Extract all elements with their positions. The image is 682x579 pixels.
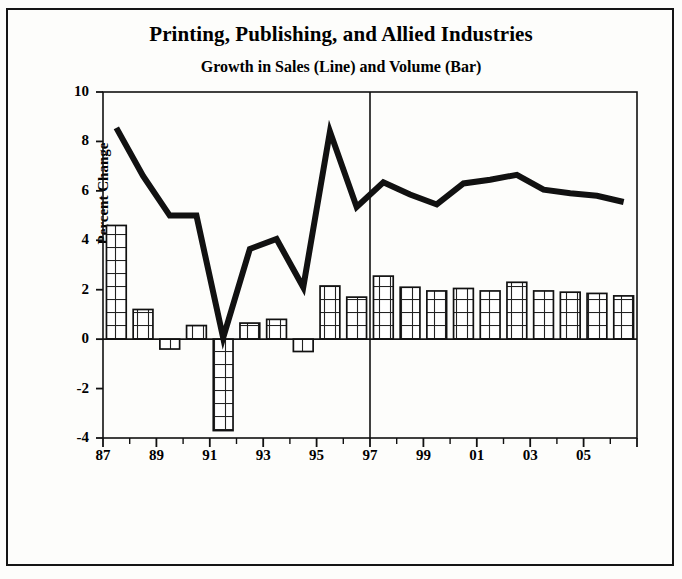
y-tick-label: -4 <box>55 431 89 443</box>
y-tick-label: 2 <box>55 283 89 295</box>
y-tick-label: -2 <box>55 382 89 394</box>
bar <box>187 326 207 340</box>
bar <box>373 276 393 339</box>
bar <box>534 291 554 339</box>
y-tick-label: 6 <box>55 184 89 196</box>
axis-layer <box>96 92 637 447</box>
bar <box>347 297 367 339</box>
plot-area <box>0 0 682 579</box>
bar <box>560 292 580 339</box>
bar <box>213 339 233 430</box>
bar <box>614 296 634 339</box>
x-tick-label: 93 <box>243 447 283 464</box>
x-tick-label: 87 <box>83 447 123 464</box>
bar <box>587 293 607 339</box>
x-tick-label: 97 <box>350 447 390 464</box>
y-tick-label: 8 <box>55 134 89 146</box>
chart-page: Printing, Publishing, and Allied Industr… <box>0 0 682 579</box>
x-tick-label: 89 <box>136 447 176 464</box>
bar <box>293 339 313 351</box>
y-tick-label: 0 <box>55 332 89 344</box>
x-tick-label: 01 <box>457 447 497 464</box>
bar <box>454 288 474 339</box>
y-tick-label: 10 <box>55 85 89 97</box>
x-tick-label: 91 <box>190 447 230 464</box>
bar <box>480 291 500 339</box>
bar <box>320 286 340 339</box>
x-tick-label: 05 <box>564 447 604 464</box>
bar <box>106 225 126 339</box>
x-tick-label: 99 <box>403 447 443 464</box>
bar <box>507 282 527 339</box>
bar <box>133 309 153 339</box>
x-tick-label: 95 <box>297 447 337 464</box>
y-tick-label: 4 <box>55 233 89 245</box>
bar <box>160 339 180 349</box>
x-tick-label: 03 <box>510 447 550 464</box>
bar <box>427 291 447 339</box>
bar <box>240 323 260 339</box>
chart-svg <box>0 0 682 579</box>
bar <box>267 319 287 339</box>
bar <box>400 287 420 339</box>
